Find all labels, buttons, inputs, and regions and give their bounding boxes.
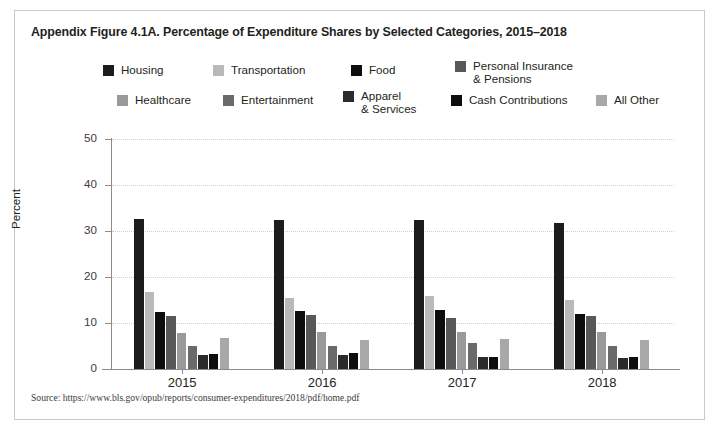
bar [145, 292, 155, 369]
bar [177, 333, 187, 369]
x-tick-mark [462, 369, 463, 374]
bar [306, 315, 316, 369]
bar [220, 338, 230, 369]
bar [317, 332, 327, 369]
y-tick-mark [105, 323, 111, 324]
bar [629, 357, 639, 369]
legend-item-label: Food [369, 63, 395, 76]
y-tick-label: 40 [67, 177, 97, 190]
legend-item-label: Housing [121, 63, 164, 76]
bar [338, 355, 348, 369]
y-tick-mark [105, 139, 111, 140]
bar [500, 339, 510, 369]
chart-legend: HousingTransportationFoodPersonal Insura… [103, 63, 683, 123]
bar [554, 223, 564, 369]
legend-item: Transportation [213, 63, 305, 76]
x-tick-mark [602, 369, 603, 374]
x-axis-group-label: 2018 [562, 375, 642, 390]
y-tick-label: 30 [67, 223, 97, 236]
bar [134, 219, 144, 369]
bar-group [554, 139, 650, 369]
legend-item-label: Personal Insurance & Pensions [473, 59, 573, 85]
bar [166, 316, 176, 369]
bar [328, 346, 338, 369]
legend-swatch-icon [223, 95, 234, 106]
bar [618, 358, 628, 369]
bar [155, 312, 165, 370]
legend-item-label: Transportation [231, 63, 305, 76]
legend-swatch-icon [451, 95, 462, 106]
legend-swatch-icon [343, 91, 354, 102]
x-axis-group-label: 2016 [282, 375, 362, 390]
y-tick-mark [105, 185, 111, 186]
bar [575, 314, 585, 369]
bar [478, 357, 488, 369]
y-axis-title: Percent [9, 189, 22, 229]
bar [586, 316, 596, 369]
legend-item: Personal Insurance & Pensions [455, 59, 573, 85]
x-axis-line [102, 369, 680, 370]
bar [360, 340, 370, 369]
bar-group [274, 139, 370, 369]
legend-item-label: Healthcare [135, 93, 191, 106]
bar [198, 355, 208, 369]
bar [414, 220, 424, 369]
y-tick-label: 0 [67, 361, 97, 374]
bar [457, 332, 467, 369]
bar [285, 298, 295, 369]
bar [468, 343, 478, 369]
bar [435, 310, 445, 369]
bar [597, 332, 607, 369]
y-tick-mark [105, 369, 111, 370]
x-axis-group-label: 2015 [142, 375, 222, 390]
legend-item: Food [351, 63, 395, 76]
plot-area [112, 139, 674, 369]
legend-item-label: All Other [614, 93, 659, 106]
legend-item: All Other [596, 93, 659, 106]
legend-item: Apparel & Services [343, 89, 416, 115]
legend-swatch-icon [103, 65, 114, 76]
figure-frame: Appendix Figure 4.1A. Percentage of Expe… [14, 10, 705, 420]
source-note: Source: https://www.bls.gov/opub/reports… [31, 392, 360, 403]
legend-item: Healthcare [117, 93, 191, 106]
legend-swatch-icon [351, 65, 362, 76]
y-tick-mark [105, 277, 111, 278]
bar [425, 296, 435, 369]
bar [446, 318, 456, 369]
legend-item-label: Cash Contributions [469, 93, 568, 106]
x-axis-group-label: 2017 [422, 375, 502, 390]
legend-swatch-icon [455, 61, 466, 72]
bar [565, 300, 575, 369]
bar [640, 340, 650, 369]
bar [349, 353, 359, 369]
legend-swatch-icon [213, 65, 224, 76]
bar-group [134, 139, 230, 369]
y-tick-label: 10 [67, 315, 97, 328]
legend-swatch-icon [596, 95, 607, 106]
y-tick-label: 50 [67, 131, 97, 144]
bar [295, 311, 305, 369]
legend-item-label: Apparel & Services [361, 89, 416, 115]
x-tick-mark [182, 369, 183, 374]
bar-group [414, 139, 510, 369]
figure-title: Appendix Figure 4.1A. Percentage of Expe… [31, 25, 671, 39]
bar [188, 346, 198, 369]
y-tick-label: 20 [67, 269, 97, 282]
bar [489, 357, 499, 369]
legend-item: Cash Contributions [451, 93, 568, 106]
bar [274, 220, 284, 369]
legend-item-label: Entertainment [241, 93, 313, 106]
legend-item: Housing [103, 63, 164, 76]
y-tick-mark [105, 231, 111, 232]
legend-swatch-icon [117, 95, 128, 106]
bar [608, 346, 618, 369]
legend-item: Entertainment [223, 93, 313, 106]
x-tick-mark [322, 369, 323, 374]
bar [209, 354, 219, 369]
